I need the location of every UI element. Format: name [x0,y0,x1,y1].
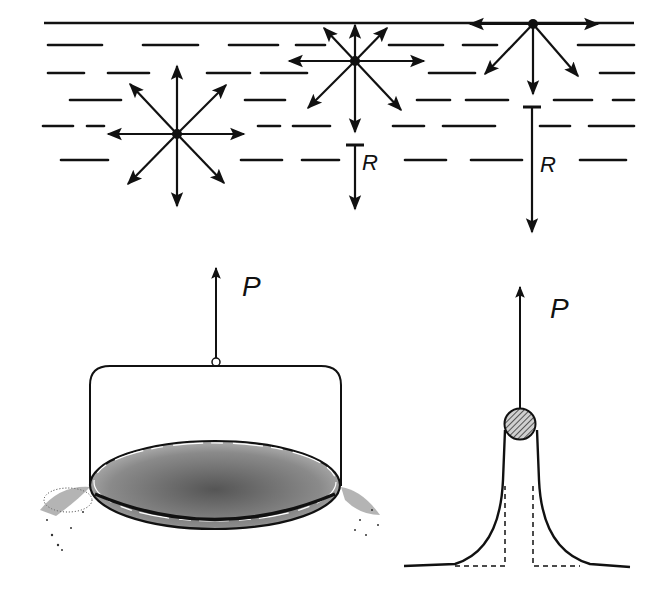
label-resultant-2: R [540,152,556,177]
plate-disk [90,441,340,529]
hook-knob [212,358,220,366]
liquid-dash-lines [43,45,634,160]
molecule-interior [108,66,244,206]
bottom-left-plate-panel: P [40,268,380,551]
wire-cross-section [505,409,536,440]
molecule-near-surface [289,25,424,209]
diagram-canvas: R R P [0,0,666,601]
label-resultant-1: R [362,150,378,175]
top-panel-liquid: R R [43,19,634,232]
liquid-meniscus-profile [404,430,630,567]
label-force-p-left: P [242,271,261,302]
label-force-p-right: P [550,293,569,324]
bottom-right-wire-panel: P [404,287,630,567]
